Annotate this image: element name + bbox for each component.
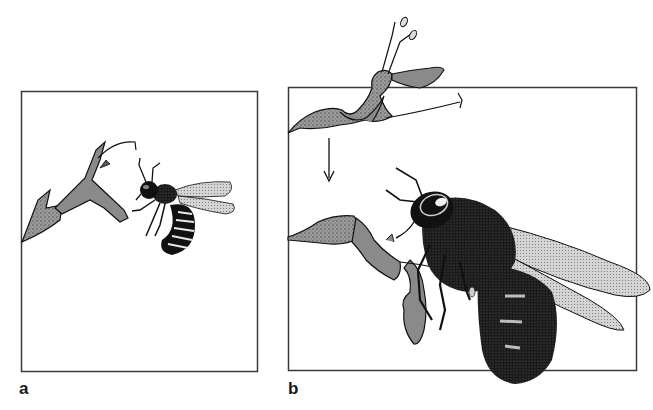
bee-b bbox=[386, 168, 650, 384]
panel-b bbox=[288, 16, 650, 384]
illustration-canvas bbox=[0, 0, 653, 410]
flower-b-upper bbox=[288, 16, 462, 133]
flower-a bbox=[22, 142, 136, 242]
panel-label-b: b bbox=[288, 380, 298, 397]
figure: a b bbox=[0, 0, 653, 410]
flower-b-lower bbox=[288, 216, 438, 344]
bee-a bbox=[132, 158, 234, 255]
panel-label-a: a bbox=[19, 380, 28, 397]
panel-a-frame bbox=[22, 92, 258, 372]
panel-a bbox=[22, 92, 258, 372]
arrow-down-icon bbox=[324, 138, 334, 181]
